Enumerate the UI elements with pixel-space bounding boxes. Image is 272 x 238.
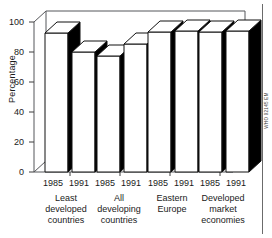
group-label-line: countries xyxy=(87,215,151,226)
bar-front-face xyxy=(148,32,171,172)
y-axis-ticks xyxy=(29,22,34,172)
group-label-line: market xyxy=(191,204,255,215)
figure-right-rule xyxy=(262,4,263,234)
bar-front-face xyxy=(175,31,198,172)
depth-edge-top xyxy=(34,11,46,22)
x-label-year-4: 1991 xyxy=(116,178,146,188)
bar-front-face xyxy=(226,31,249,172)
depth-edge-origin xyxy=(34,161,46,172)
bar-front-face xyxy=(97,56,120,172)
bar-front-face xyxy=(199,32,222,172)
bar-front-face xyxy=(72,52,95,172)
x-label-year-8: 1991 xyxy=(221,178,251,188)
bar-front-face xyxy=(124,44,147,172)
bar-front-face xyxy=(45,33,68,172)
group-label-line: Developed xyxy=(191,193,255,204)
source-code-label: WHO 92145 EM xyxy=(264,81,269,141)
group-label-line: economies xyxy=(191,215,255,226)
bar-developed-market-1991 xyxy=(226,20,261,172)
x-group-label-developed-market: Developed market economies xyxy=(191,193,255,226)
bar-side-face xyxy=(249,20,261,172)
chart-figure: Percentage 100 80 60 40 20 0 xyxy=(0,0,272,238)
